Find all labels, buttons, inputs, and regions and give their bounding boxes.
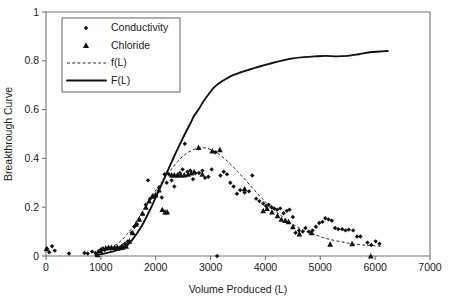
data-point-chloride: [217, 147, 223, 152]
data-point-conductivity: [53, 248, 57, 252]
y-axis-title: Breakthrough Curve: [2, 87, 14, 181]
y-tick-label: 0.6: [24, 103, 39, 115]
legend-label: f(L): [111, 56, 127, 68]
legend-label: Chloride: [111, 39, 150, 51]
data-point-conductivity: [197, 171, 201, 175]
y-axis-ticks: 00.20.40.60.81: [24, 6, 46, 262]
data-point-chloride: [275, 213, 281, 218]
data-point-conductivity: [146, 178, 150, 182]
data-point-conductivity: [314, 225, 318, 229]
data-point-conductivity: [228, 181, 232, 185]
data-point-chloride: [242, 186, 248, 191]
data-point-chloride: [143, 204, 149, 209]
y-tick-label: 0: [33, 250, 39, 262]
x-tick-label: 7000: [418, 261, 442, 273]
data-point-conductivity: [351, 228, 355, 232]
data-point-conductivity: [222, 170, 226, 174]
data-point-chloride: [136, 216, 142, 221]
legend: ConductivityChloridef(L)F(L): [62, 18, 180, 92]
x-tick-label: 4000: [254, 261, 278, 273]
x-tick-label: 0: [43, 261, 49, 273]
data-point-conductivity: [191, 177, 195, 181]
y-tick-label: 0.4: [24, 152, 39, 164]
x-tick-label: 2000: [144, 261, 168, 273]
data-point-conductivity: [180, 167, 184, 171]
data-point-conductivity: [238, 188, 242, 192]
data-point-conductivity: [281, 211, 285, 215]
y-tick-label: 0.8: [24, 54, 39, 66]
data-point-conductivity: [183, 142, 187, 146]
y-tick-label: 1: [33, 6, 39, 18]
data-point-chloride: [199, 171, 205, 176]
chart-canvas: 00.20.40.60.81 0100020003000400050006000…: [0, 0, 450, 304]
x-tick-label: 6000: [363, 261, 387, 273]
data-point-conductivity: [291, 215, 295, 219]
data-point-chloride: [140, 210, 146, 215]
data-point-conductivity: [164, 181, 168, 185]
data-point-conductivity: [358, 234, 362, 238]
data-point-conductivity: [254, 196, 258, 200]
data-point-conductivity: [235, 192, 239, 196]
data-point-conductivity: [250, 173, 254, 177]
data-point-conductivity: [225, 172, 229, 176]
data-point-conductivity: [377, 242, 381, 246]
x-tick-label: 1000: [89, 261, 113, 273]
x-tick-label: 3000: [199, 261, 223, 273]
data-point-conductivity: [347, 227, 351, 231]
data-point-conductivity: [172, 184, 176, 188]
series-conductivity-points: [45, 142, 382, 259]
data-point-conductivity: [247, 189, 251, 193]
data-point-chloride: [290, 224, 296, 229]
data-point-conductivity: [169, 178, 173, 182]
curve-f-of-l: [95, 148, 380, 253]
x-axis-title: Volume Produced (L): [189, 283, 288, 295]
data-point-chloride: [196, 144, 202, 149]
data-point-conductivity: [67, 251, 71, 255]
data-point-conductivity: [365, 240, 369, 244]
data-point-conductivity: [297, 228, 301, 232]
legend-label: Conductivity: [111, 21, 169, 33]
data-point-conductivity: [85, 251, 89, 255]
data-point-conductivity: [369, 243, 373, 247]
data-point-conductivity: [160, 195, 164, 199]
x-axis-ticks: 01000200030004000500060007000: [43, 256, 442, 273]
data-point-conductivity: [82, 251, 86, 255]
x-tick-label: 5000: [309, 261, 333, 273]
data-point-conductivity: [303, 226, 307, 230]
data-point-chloride: [327, 241, 333, 246]
data-point-conductivity: [231, 184, 235, 188]
data-point-conductivity: [50, 244, 54, 248]
data-point-conductivity: [215, 254, 219, 258]
data-point-conductivity: [293, 231, 297, 235]
y-tick-label: 0.2: [24, 201, 39, 213]
data-point-conductivity: [218, 173, 222, 177]
data-point-conductivity: [209, 167, 213, 171]
series-chloride-points: [44, 144, 374, 258]
legend-label: F(L): [111, 74, 130, 86]
data-point-conductivity: [373, 239, 377, 243]
breakthrough-curve-chart: 00.20.40.60.81 0100020003000400050006000…: [0, 0, 450, 304]
data-point-conductivity: [257, 199, 261, 203]
